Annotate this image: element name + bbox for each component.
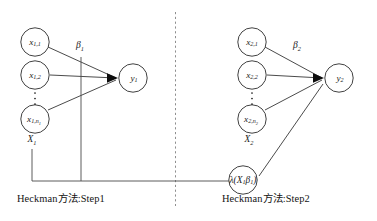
diagram-canvas: x1,1 x1,2 x1,n1 y1 β1 X1 <box>0 0 377 221</box>
caption-step1: Heckman方法:Step1 <box>17 190 105 205</box>
edge-x12-to-y1 <box>50 75 116 78</box>
label-beta1: β1 <box>75 39 84 52</box>
diagram-root: x1,1 x1,2 x1,n1 y1 β1 X1 <box>0 0 377 221</box>
label-X2: X2 <box>244 134 255 146</box>
step2-edges <box>259 47 324 176</box>
edge-x1n-to-y1 <box>48 80 116 110</box>
label-beta2: β2 <box>292 39 302 52</box>
edge-lambda-to-y2 <box>259 84 323 176</box>
arrowhead-y2 <box>313 73 324 83</box>
label-X1: X1 <box>27 134 37 146</box>
ellipsis-step1 <box>34 92 36 105</box>
edge-x2n-to-y2 <box>265 80 322 110</box>
caption-step2: Heckman方法:Step2 <box>222 190 310 205</box>
step1-edges <box>48 47 118 110</box>
edge-x21-to-y2 <box>265 47 322 78</box>
ellipsis-step2 <box>251 92 253 105</box>
